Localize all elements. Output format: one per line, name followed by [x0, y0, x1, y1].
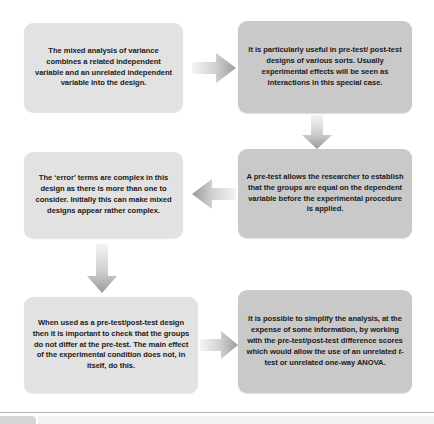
flow-box-pretest-posttest-text: It is particularly useful in pre-test/ p…	[246, 45, 404, 89]
flow-box-pretest-posttest: It is particularly useful in pre-test/ p…	[238, 21, 412, 113]
flow-box-error-terms: The ‘error’ terms are complex in this de…	[24, 152, 183, 238]
flow-box-pretest-groups-text: A pre-test allows the researcher to esta…	[246, 172, 404, 216]
simplify-text-before: It is possible to simplify the analysis,…	[247, 314, 403, 356]
flow-box-check-groups-text: When used as a pre-test/post-test design…	[32, 318, 190, 373]
flow-box-mixed-anova-text: The mixed analysis of variance combines …	[32, 46, 175, 90]
flow-box-simplify-analysis-text: It is possible to simplify the analysis,…	[246, 314, 404, 369]
flow-box-simplify-analysis: It is possible to simplify the analysis,…	[238, 290, 412, 393]
flow-box-error-terms-text: The ‘error’ terms are complex in this de…	[32, 173, 175, 217]
footer-divider	[0, 412, 434, 413]
flowchart-canvas: The mixed analysis of variance combines …	[0, 0, 434, 424]
arrow-right-icon	[190, 50, 238, 86]
flow-box-pretest-groups: A pre-test allows the researcher to esta…	[238, 149, 412, 238]
flow-box-mixed-anova: The mixed analysis of variance combines …	[24, 23, 183, 112]
arrow-left-icon	[190, 176, 238, 212]
footer-tab	[0, 416, 36, 424]
arrow-right-icon	[198, 328, 240, 362]
arrow-down-icon	[83, 240, 121, 296]
flow-box-check-groups: When used as a pre-test/post-test design…	[24, 297, 198, 393]
arrow-down-icon	[298, 113, 336, 151]
footer-bar	[38, 416, 434, 424]
